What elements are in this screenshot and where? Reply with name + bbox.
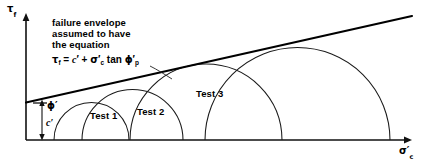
phi-angle-label: ϕ′	[47, 100, 58, 112]
y-axis-label-subscript: f	[13, 11, 16, 19]
test-2-label: Test 2	[137, 106, 164, 117]
failure-envelope-note: failure envelope assumed to have the equ…	[52, 17, 131, 51]
equation-tan: tan	[107, 54, 122, 65]
equation-phi: ϕ	[125, 54, 133, 65]
test-1-label: Test 1	[90, 110, 117, 121]
y-axis-label: τf	[7, 3, 16, 18]
cohesion-dimension-marker	[33, 100, 47, 141]
phi-angle-prime: ′	[55, 100, 58, 111]
phi-angle-symbol: ϕ	[47, 100, 55, 111]
x-axis-label-subscript: c	[409, 153, 413, 161]
equation-tau-subscript: f	[58, 59, 60, 66]
failure-envelope-equation: τf = c′ + σ′c tan ϕ′p	[52, 54, 139, 66]
note-line-3: the equation	[52, 39, 131, 50]
cohesion-prime: ′	[50, 117, 53, 128]
equation-plus: +	[82, 54, 88, 65]
equation-leader-line	[150, 66, 172, 79]
y-axis-arrowhead	[23, 13, 30, 21]
mohr-coulomb-figure: τf σ′c failure envelope assumed to have …	[0, 0, 427, 167]
note-line-2: assumed to have	[52, 28, 131, 39]
mohr-circle-test-1	[54, 103, 129, 141]
test-3-label: Test 3	[196, 88, 223, 99]
equation-phi-subscript: p	[135, 59, 139, 66]
mohr-circle-test-4	[205, 48, 390, 140]
note-line-1: failure envelope	[52, 17, 131, 28]
equation-sigma: σ	[90, 54, 98, 65]
equation-equals: =	[63, 54, 69, 65]
x-axis-label-symbol: σ	[399, 145, 407, 156]
equation-c-prime: ′	[76, 54, 78, 65]
x-axis-label: σ′c	[399, 145, 413, 160]
cohesion-label: c′	[46, 117, 53, 129]
equation-sigma-subscript: c	[100, 59, 104, 66]
x-axis-arrowhead	[404, 137, 412, 144]
